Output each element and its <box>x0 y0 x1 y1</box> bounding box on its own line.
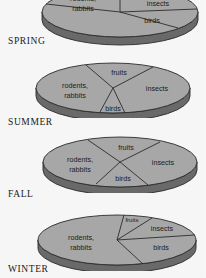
pie-chart-fall: fruits rodents, rabbits insects birds <box>0 131 206 193</box>
pie-fall-label-fruits: fruits <box>118 143 134 152</box>
pie-winter-label-birds: birds <box>153 243 169 252</box>
pie-winter-label-rabbits: rabbits <box>70 243 92 252</box>
pie-summer-label-rodents: rodents, <box>62 81 88 90</box>
season-label-fall: FALL <box>8 189 33 199</box>
pie-summer-label-fruits: fruits <box>111 68 127 77</box>
pie-summer-label-rabbits: rabbits <box>64 91 86 100</box>
pie-summer-label-insects: insects <box>146 84 169 93</box>
pie-spring-label-rabbits: rabbits <box>72 4 94 13</box>
pie-fall-label-rabbits: rabbits <box>69 165 91 174</box>
pie-chart-winter: fruits rodents, rabbits insects birds <box>0 207 206 271</box>
pie-spring-label-rodents: rodents, <box>70 0 96 3</box>
season-label-winter: WINTER <box>8 264 49 274</box>
pie-summer-svg: fruits rodents, rabbits insects birds <box>0 56 206 118</box>
pie-winter-label-fruits: fruits <box>125 216 138 223</box>
pie-chart-summer: fruits rodents, rabbits insects birds <box>0 56 206 118</box>
pie-fall-label-rodents: rodents, <box>67 155 93 164</box>
season-label-summer: SUMMER <box>8 117 53 127</box>
season-label-spring: SPRING <box>8 36 45 46</box>
pie-winter-svg: fruits rodents, rabbits insects birds <box>0 207 206 271</box>
pie-winter-label-insects: insects <box>151 224 174 233</box>
pie-spring-label-insects: insects <box>147 0 170 8</box>
pie-fall-label-birds: birds <box>115 174 131 183</box>
pie-spring-label-birds: birds <box>144 16 160 25</box>
pie-summer-label-birds: birds <box>105 104 121 113</box>
pie-fall-svg: fruits rodents, rabbits insects birds <box>0 131 206 193</box>
seasonal-pie-chart-figure: rodents, rabbits insects birds SPRING fr… <box>0 0 206 278</box>
pie-fall-label-insects: insects <box>152 158 175 167</box>
pie-winter-label-rodents: rodents, <box>68 233 94 242</box>
